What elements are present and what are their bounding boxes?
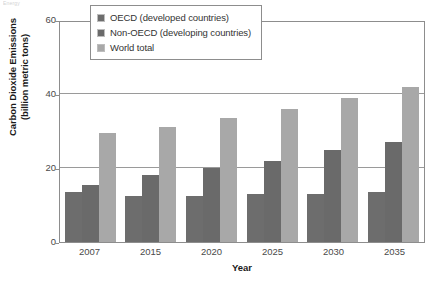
y-axis-tick-mark <box>55 243 59 244</box>
bar <box>247 194 264 242</box>
bar <box>385 142 402 242</box>
legend-item: Non-OECD (developing countries) <box>97 25 251 40</box>
y-axis-tick-label: 20 <box>16 162 56 173</box>
bar <box>125 196 142 242</box>
x-axis-tick-label: 2015 <box>123 246 179 257</box>
y-axis-title-line-2: (billion metric tons) <box>19 34 31 120</box>
y-axis-tick-label: 60 <box>16 14 56 25</box>
bar <box>307 194 324 242</box>
bar <box>142 175 159 242</box>
bar-group <box>307 22 358 242</box>
bar <box>159 127 176 242</box>
legend-item-label: World total <box>110 42 154 53</box>
x-axis-tick-label: 2020 <box>184 246 240 257</box>
bar <box>203 168 220 242</box>
co2-emissions-bar-chart: Energy Carbon Dioxide Emissions (billion… <box>0 0 438 281</box>
legend-swatch-icon <box>97 14 105 22</box>
bar <box>186 196 203 242</box>
legend-item: World total <box>97 40 251 55</box>
legend-item-label: Non-OECD (developing countries) <box>110 27 251 38</box>
chart-legend: OECD (developed countries)Non-OECD (deve… <box>90 5 262 60</box>
legend-swatch-icon <box>97 29 105 37</box>
bar-group <box>368 22 419 242</box>
bar <box>341 98 358 242</box>
bar <box>82 185 99 242</box>
bar <box>368 192 385 242</box>
x-axis-tick-labels: 200720152020202520302035 <box>59 246 425 257</box>
bar <box>324 150 341 243</box>
bar <box>220 118 237 242</box>
legend-item-label: OECD (developed countries) <box>110 12 229 23</box>
y-axis-title-line-1: Carbon Dioxide Emissions <box>7 18 19 136</box>
x-axis-tick-label: 2025 <box>245 246 301 257</box>
y-axis-tick-label: 0 <box>16 236 56 247</box>
y-axis-tick-label: 40 <box>16 88 56 99</box>
x-axis-tick-label: 2035 <box>367 246 423 257</box>
bar <box>402 87 419 242</box>
bar <box>281 109 298 242</box>
bar <box>264 161 281 242</box>
bar <box>65 192 82 242</box>
legend-item: OECD (developed countries) <box>97 10 251 25</box>
x-axis-title: Year <box>59 262 425 273</box>
bar <box>99 133 116 242</box>
x-axis-tick-label: 2030 <box>306 246 362 257</box>
x-axis-tick-label: 2007 <box>62 246 118 257</box>
y-axis-title: Carbon Dioxide Emissions (billion metric… <box>4 0 34 172</box>
legend-swatch-icon <box>97 44 105 52</box>
